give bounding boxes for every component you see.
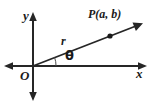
point-p-label: P(a, b)	[88, 8, 121, 20]
terminal-ray-line	[33, 26, 136, 66]
radius-label: r	[61, 35, 66, 47]
x-axis-left-arrowhead	[4, 62, 13, 70]
point-p-dot	[107, 33, 112, 38]
y-axis-up-arrowhead	[29, 12, 37, 21]
angle-label: θ	[65, 49, 74, 62]
polar-coordinate-diagram: y x O r θ P(a, b)	[0, 0, 152, 104]
origin-label: O	[20, 69, 29, 82]
x-axis-label: x	[136, 67, 143, 80]
angle-arc	[55, 58, 56, 67]
y-axis-label: y	[23, 9, 29, 22]
y-axis-down-arrowhead	[29, 92, 37, 101]
